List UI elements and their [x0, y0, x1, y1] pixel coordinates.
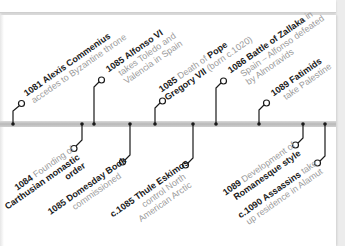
marker-circle-icon: [221, 78, 227, 84]
connector-1081: [13, 106, 19, 124]
connector-1089-fatimids: [259, 105, 264, 124]
connector-1090: [320, 124, 325, 161]
connector-1084: [76, 124, 82, 146]
timeline-dot: [301, 122, 305, 126]
marker-circle-icon: [19, 101, 25, 107]
timeline-dot: [257, 122, 261, 126]
connector-1089-romanesque: [298, 124, 303, 143]
timeline-dot: [191, 122, 195, 126]
marker-circle-icon: [99, 77, 105, 83]
marker-circle-icon: [160, 98, 166, 104]
timeline-dot: [11, 122, 15, 126]
timeline-dot: [214, 122, 218, 126]
connector-1085-gregory: [155, 103, 160, 124]
connector-1085-domesday: [125, 124, 130, 160]
connector-1086: [216, 83, 221, 124]
connector-1085-alfonso: [94, 82, 99, 124]
connector-1085-thule: [188, 124, 193, 163]
timeline-dot: [80, 122, 84, 126]
timeline-dot: [153, 122, 157, 126]
marker-circle-icon: [264, 100, 270, 106]
timeline-dot: [323, 122, 327, 126]
timeline-dot: [128, 122, 132, 126]
timeline-dot: [92, 122, 96, 126]
